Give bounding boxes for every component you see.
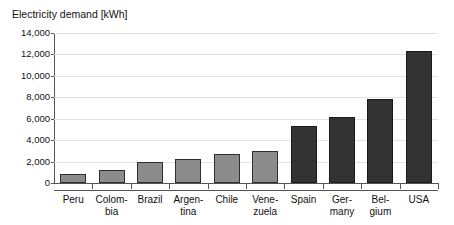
bar [214,154,240,183]
x-axis-tick-mark [284,183,285,189]
category-label-line1: Ger- [332,194,352,205]
category-label-line1: USA [409,194,430,205]
bar [175,159,201,183]
y-axis-tick-label: 0 [2,178,50,188]
x-axis-category-label: Vene-zuela [246,192,284,217]
x-axis-tick-mark [246,183,247,189]
y-axis-tick-label: 12,000 [2,49,50,59]
category-label-line1: Brazil [137,194,162,205]
x-axis-category-label: USA [400,192,438,206]
x-axis-category-label: Argen-tina [169,192,207,217]
x-axis-category-label: Bel-gium [361,192,399,217]
y-axis-tick-label: 2,000 [2,157,50,167]
category-label-line2: gium [361,206,399,218]
x-axis-category-label: Chile [208,192,246,206]
bar [60,174,86,183]
x-axis-category-label: Spain [284,192,322,206]
x-axis-tick-mark [400,183,401,189]
category-label-line1: Colom- [95,194,127,205]
x-axis-tick-mark [131,183,132,189]
category-label-line2: bia [92,206,130,218]
x-axis-category-labels: PeruColom-biaBrazilArgen-tinaChileVene-z… [54,192,438,225]
x-axis-category-label: Brazil [131,192,169,206]
gridline [54,54,438,55]
category-label-line1: Argen- [173,194,203,205]
bar [99,170,125,183]
category-label-line2: many [323,206,361,218]
bar [137,162,163,183]
category-label-line1: Chile [215,194,238,205]
x-axis-tick-marks [54,183,438,190]
y-axis-tick-label: 6,000 [2,114,50,124]
bar [252,151,278,183]
x-axis-tick-mark [438,183,439,189]
category-label-line1: Peru [63,194,84,205]
bar [406,51,432,183]
category-label-line2: tina [169,206,207,218]
category-label-line2: zuela [246,206,284,218]
x-axis-tick-mark [361,183,362,189]
category-label-line1: Vene- [252,194,278,205]
y-axis-tick-labels: 14,00012,00010,0008,0006,0004,0002,0000 [0,33,50,184]
x-axis-tick-mark [92,183,93,189]
category-label-line1: Bel- [371,194,389,205]
x-axis-baseline [54,190,438,191]
gridline [54,33,438,34]
gridline [54,76,438,77]
bar [329,117,355,183]
gridline [54,97,438,98]
x-axis-tick-mark [169,183,170,189]
x-axis-tick-mark [208,183,209,189]
x-axis-category-label: Peru [54,192,92,206]
plot-area [54,33,438,183]
bar-chart: Electricity demand [kWh] 14,00012,00010,… [0,0,454,225]
bar [367,99,393,183]
x-axis-category-label: Ger-many [323,192,361,217]
x-axis-tick-mark [323,183,324,189]
y-axis-tick-label: 14,000 [2,28,50,38]
category-label-line1: Spain [291,194,317,205]
y-axis-tick-label: 8,000 [2,92,50,102]
x-axis-category-label: Colom-bia [92,192,130,217]
bar [291,126,317,183]
chart-title: Electricity demand [kWh] [12,8,128,20]
y-axis-tick-label: 10,000 [2,71,50,81]
y-axis-tick-label: 4,000 [2,135,50,145]
